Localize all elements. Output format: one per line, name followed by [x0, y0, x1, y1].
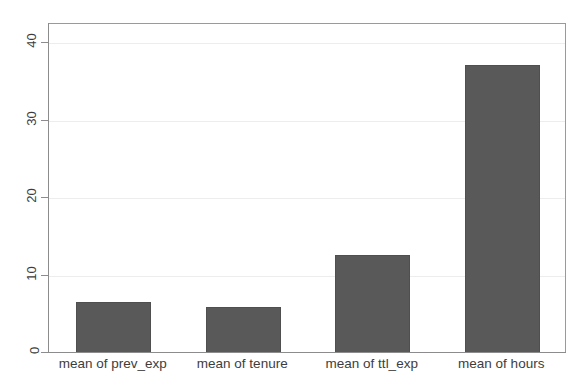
y-axis-line — [48, 23, 49, 353]
y-tick-label-text: 30 — [23, 111, 38, 125]
bar-2[interactable] — [335, 255, 410, 353]
y-tick-label-text: 0 — [27, 347, 42, 354]
y-tick-label-30: 30 — [0, 111, 38, 126]
y-tick-label-text: 20 — [23, 188, 38, 202]
y-tick-label-10: 10 — [0, 266, 38, 281]
x-tick-label-0: mean of prev_exp — [48, 356, 178, 371]
x-axis-line — [48, 352, 566, 353]
y-tick-mark-40 — [41, 42, 48, 43]
bar-0[interactable] — [76, 302, 151, 353]
y-tick-label-20: 20 — [0, 188, 38, 203]
y-tick-label-40: 40 — [0, 33, 38, 48]
plot-area — [48, 23, 566, 352]
y-tick-mark-20 — [41, 197, 48, 198]
bar-1[interactable] — [206, 307, 281, 353]
y-tick-mark-30 — [41, 120, 48, 121]
x-tick-label-1: mean of tenure — [178, 356, 308, 371]
bar-3[interactable] — [465, 65, 540, 353]
y-tick-label-text: 40 — [23, 34, 38, 48]
y-tick-label-0: 0 — [0, 343, 38, 358]
gridline-40 — [49, 43, 565, 44]
y-tick-mark-10 — [41, 275, 48, 276]
x-axis-labels: mean of prev_expmean of tenuremean of tt… — [48, 356, 566, 382]
x-tick-label-2: mean of ttl_exp — [307, 356, 437, 371]
x-tick-label-3: mean of hours — [437, 356, 567, 371]
bar-chart: 010203040 mean of prev_expmean of tenure… — [0, 0, 578, 391]
y-tick-label-text: 10 — [23, 266, 38, 280]
